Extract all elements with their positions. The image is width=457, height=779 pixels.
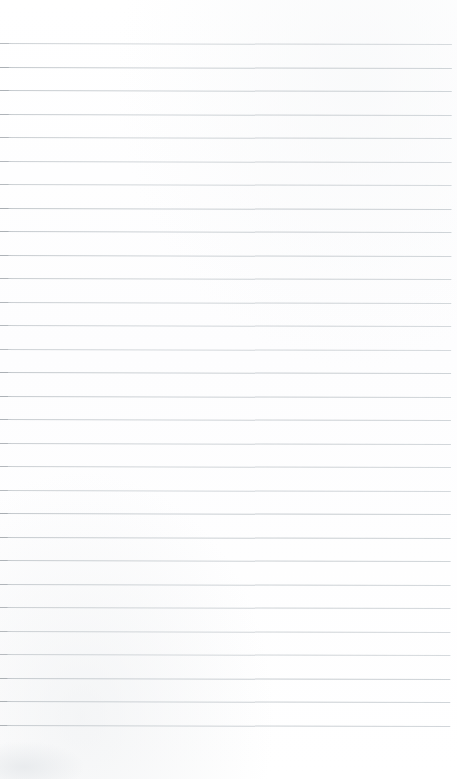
writing-area[interactable] — [0, 0, 457, 779]
notebook-page — [0, 0, 457, 779]
